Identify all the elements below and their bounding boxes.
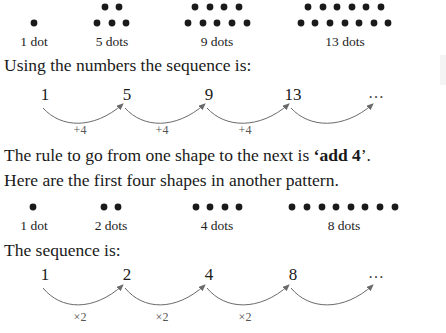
dot-icon bbox=[304, 204, 311, 211]
dot-icon bbox=[200, 20, 207, 27]
intro-text-another-pattern: Here are the first four shapes in anothe… bbox=[4, 170, 339, 191]
scan-edge-artifact bbox=[440, 55, 446, 85]
rule-text: The rule to go from one shape to the nex… bbox=[4, 145, 371, 166]
dot-shape bbox=[101, 204, 122, 211]
dot-icon bbox=[115, 204, 122, 211]
dot-icon bbox=[30, 204, 37, 211]
sequence-term: 8 bbox=[289, 265, 298, 285]
arrow-arc-icon bbox=[125, 104, 205, 123]
sequence-term: 1 bbox=[41, 85, 50, 105]
dot-icon bbox=[94, 20, 101, 27]
arrow-arc-icon bbox=[207, 285, 289, 305]
dot-icon bbox=[192, 4, 199, 11]
dot-icon bbox=[312, 20, 319, 27]
dot-shape bbox=[298, 4, 392, 27]
arc-operation-label: +4 bbox=[74, 123, 87, 138]
sequence-term: 1 bbox=[41, 265, 50, 285]
dot-icon bbox=[320, 4, 327, 11]
dot-count-label: 5 dots bbox=[96, 34, 129, 50]
dot-icon bbox=[342, 20, 349, 27]
dot-shape bbox=[30, 204, 37, 211]
dot-icon bbox=[385, 20, 392, 27]
dot-shape bbox=[31, 20, 38, 27]
sequence-term: 2 bbox=[123, 265, 132, 285]
dot-shape bbox=[185, 4, 251, 27]
arc-operation-label: +4 bbox=[239, 123, 252, 138]
dot-icon bbox=[334, 4, 341, 11]
intro-text-sequence: Using the numbers the sequence is: bbox=[4, 55, 251, 76]
sequence-ellipsis: … bbox=[368, 264, 386, 282]
dot-icon bbox=[244, 20, 251, 27]
dot-count-label: 2 dots bbox=[95, 218, 128, 234]
sequence-ellipsis: … bbox=[368, 84, 386, 102]
dot-icon bbox=[229, 20, 236, 27]
dot-icon bbox=[207, 204, 214, 211]
rule-prefix: The rule to go from one shape to the nex… bbox=[4, 145, 314, 165]
arc-operation-label: ×2 bbox=[239, 310, 252, 325]
sequence-term: 13 bbox=[285, 85, 302, 105]
arrow-arc-icon bbox=[43, 104, 123, 123]
dot-icon bbox=[377, 204, 384, 211]
arrow-arc-icon bbox=[291, 285, 373, 305]
rule-emphasis: ‘add 4 bbox=[314, 145, 361, 165]
sequence-term: 5 bbox=[123, 85, 132, 105]
dot-shape bbox=[193, 204, 243, 211]
arc-operation-label: +4 bbox=[156, 123, 169, 138]
dot-icon bbox=[185, 20, 192, 27]
dot-icon bbox=[371, 20, 378, 27]
dot-icon bbox=[193, 204, 200, 211]
dot-icon bbox=[363, 4, 370, 11]
dot-icon bbox=[319, 204, 326, 211]
dot-icon bbox=[348, 204, 355, 211]
dot-icon bbox=[333, 204, 340, 211]
dot-count-label: 8 dots bbox=[328, 218, 361, 234]
arrow-arc-icon bbox=[125, 285, 205, 305]
dot-count-label: 1 dot bbox=[20, 218, 47, 234]
arc-operation-label: ×2 bbox=[74, 310, 87, 325]
rule-suffix: ’. bbox=[361, 145, 371, 165]
dot-icon bbox=[349, 4, 356, 11]
arrow-arc-icon bbox=[207, 104, 289, 123]
dot-icon bbox=[222, 204, 229, 211]
arc-operation-label: ×2 bbox=[156, 310, 169, 325]
sequence-term: 4 bbox=[205, 265, 214, 285]
dot-icon bbox=[109, 20, 116, 27]
arrow-arc-icon bbox=[43, 285, 123, 305]
dot-icon bbox=[305, 4, 312, 11]
dot-icon bbox=[362, 204, 369, 211]
dot-icon bbox=[298, 20, 305, 27]
intro-text-sequence-2: The sequence is: bbox=[4, 240, 121, 261]
arrow-arc-icon bbox=[291, 104, 373, 123]
dot-icon bbox=[378, 4, 385, 11]
dot-count-label: 13 dots bbox=[325, 34, 364, 50]
dot-icon bbox=[214, 20, 221, 27]
dot-icon bbox=[101, 204, 108, 211]
dot-icon bbox=[356, 20, 363, 27]
dot-icon bbox=[221, 4, 228, 11]
dot-icon bbox=[116, 4, 123, 11]
dot-shape bbox=[94, 4, 130, 27]
sequence-term: 9 bbox=[205, 85, 214, 105]
dot-icon bbox=[236, 204, 243, 211]
dot-count-label: 4 dots bbox=[201, 218, 234, 234]
dot-count-label: 1 dot bbox=[20, 34, 47, 50]
dot-icon bbox=[327, 20, 334, 27]
dot-icon bbox=[392, 204, 399, 211]
dot-shape bbox=[289, 204, 399, 211]
dot-icon bbox=[31, 20, 38, 27]
dot-icon bbox=[236, 4, 243, 11]
dot-icon bbox=[123, 20, 130, 27]
dot-icon bbox=[207, 4, 214, 11]
dot-icon bbox=[102, 4, 109, 11]
dot-count-label: 9 dots bbox=[201, 34, 234, 50]
dot-icon bbox=[289, 204, 296, 211]
